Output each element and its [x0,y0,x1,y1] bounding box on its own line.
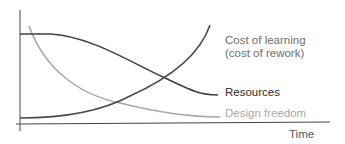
label-cost-line1: Cost of learning [225,34,306,47]
label-cost-line2: (cost of rework) [225,47,306,60]
label-cost-of-learning: Cost of learning (cost of rework) [225,34,306,60]
label-resources: Resources [225,86,280,99]
label-design-freedom: Design freedom [225,107,306,120]
line-resources [20,34,218,95]
x-axis [16,122,330,124]
x-axis-label: Time [289,128,314,141]
line-cost-of-learning [20,25,210,118]
line-design-freedom [29,26,220,117]
chart-canvas [0,0,345,144]
